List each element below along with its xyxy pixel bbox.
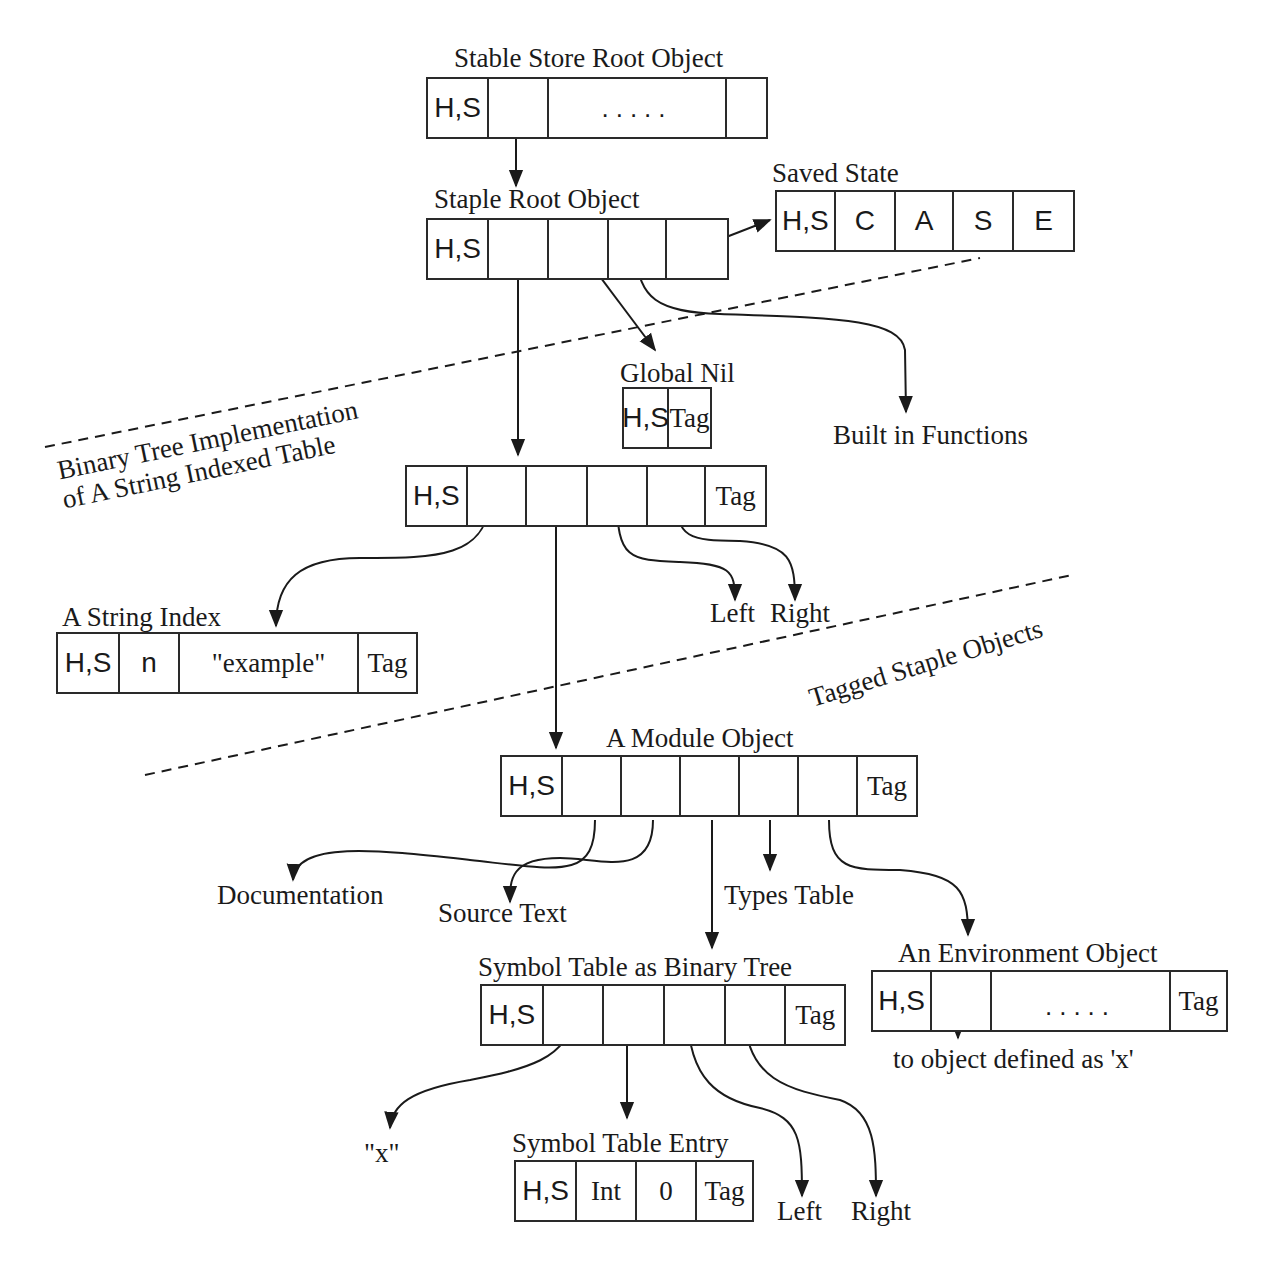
types-table-pointer-cell bbox=[740, 757, 799, 815]
char-cell: S bbox=[954, 192, 1015, 250]
type-cell: Int bbox=[577, 1162, 637, 1220]
header-size-cell: H,S bbox=[482, 986, 544, 1044]
left-pointer-cell bbox=[665, 986, 726, 1044]
source-text-label: Source Text bbox=[438, 900, 567, 927]
dashed-separator-top bbox=[45, 258, 980, 447]
pointer-cell bbox=[468, 467, 528, 525]
staple-root-record: H,S bbox=[426, 218, 729, 280]
pointer-cell bbox=[648, 467, 707, 525]
pointer-cell bbox=[489, 220, 549, 278]
tag-cell: Tag bbox=[359, 634, 416, 692]
stable-store-root-title: Stable Store Root Object bbox=[454, 45, 723, 72]
header-size-cell: H,S bbox=[873, 972, 932, 1030]
tag-cell: Tag bbox=[669, 389, 710, 447]
char-cell: C bbox=[836, 192, 897, 250]
pointer-cell bbox=[549, 220, 609, 278]
ellipsis-cell: ..... bbox=[549, 79, 727, 137]
header-size-cell: H,S bbox=[502, 757, 563, 815]
string-index-record: H,S n "example" Tag bbox=[56, 632, 418, 694]
char-cell: E bbox=[1014, 192, 1073, 250]
string-value-cell: "example" bbox=[180, 634, 359, 692]
left-label: Left bbox=[710, 600, 755, 627]
saved-state-title: Saved State bbox=[772, 160, 899, 187]
right-pointer-cell bbox=[726, 986, 787, 1044]
binary-tree-node-record: H,S Tag bbox=[405, 465, 767, 527]
symbol-table-pointer-cell bbox=[681, 757, 740, 815]
global-nil-title: Global Nil bbox=[620, 360, 735, 387]
value-cell: 0 bbox=[637, 1162, 697, 1220]
string-index-title: A String Index bbox=[62, 604, 221, 631]
pointer-cell bbox=[727, 79, 766, 137]
stable-store-root-record: H,S ..... bbox=[426, 77, 768, 139]
built-in-functions-label: Built in Functions bbox=[833, 422, 1028, 449]
object-defined-x-label: to object defined as 'x' bbox=[893, 1046, 1134, 1073]
symbol-tree-title: Symbol Table as Binary Tree bbox=[478, 954, 792, 981]
right-label: Right bbox=[851, 1198, 911, 1225]
header-size-cell: H,S bbox=[428, 79, 489, 137]
key-pointer-cell bbox=[544, 986, 605, 1044]
pointer-cell bbox=[667, 220, 727, 278]
entry-pointer-cell bbox=[604, 986, 665, 1044]
header-size-cell: H,S bbox=[516, 1162, 577, 1220]
right-label: Right bbox=[770, 600, 830, 627]
header-size-cell: H,S bbox=[777, 192, 836, 250]
symbol-entry-title: Symbol Table Entry bbox=[512, 1130, 729, 1157]
symbol-entry-record: H,S Int 0 Tag bbox=[514, 1160, 754, 1222]
ellipsis-cell: ..... bbox=[992, 972, 1171, 1030]
tag-cell: Tag bbox=[706, 467, 765, 525]
module-object-title: A Module Object bbox=[606, 725, 793, 752]
pointer-cell bbox=[527, 467, 588, 525]
types-table-label: Types Table bbox=[724, 882, 854, 909]
environment-pointer-cell bbox=[799, 757, 858, 815]
left-label: Left bbox=[777, 1198, 822, 1225]
environment-object-record: H,S ..... Tag bbox=[871, 970, 1228, 1032]
global-nil-record: H,S Tag bbox=[622, 387, 712, 449]
header-size-cell: H,S bbox=[58, 634, 120, 692]
header-size-cell: H,S bbox=[407, 467, 468, 525]
char-cell: A bbox=[896, 192, 954, 250]
saved-state-record: H,S C A S E bbox=[775, 190, 1075, 252]
tag-cell: Tag bbox=[786, 986, 844, 1044]
binding-pointer-cell bbox=[932, 972, 992, 1030]
staple-root-title: Staple Root Object bbox=[434, 186, 639, 213]
tag-cell: Tag bbox=[1171, 972, 1226, 1030]
x-string-label: "x" bbox=[364, 1140, 400, 1167]
length-cell: n bbox=[120, 634, 180, 692]
pointer-cell bbox=[489, 79, 549, 137]
header-size-cell: H,S bbox=[624, 389, 669, 447]
documentation-pointer-cell bbox=[563, 757, 622, 815]
tag-cell: Tag bbox=[697, 1162, 752, 1220]
module-object-record: H,S Tag bbox=[500, 755, 918, 817]
documentation-label: Documentation bbox=[217, 882, 383, 909]
environment-object-title: An Environment Object bbox=[898, 940, 1157, 967]
symbol-tree-record: H,S Tag bbox=[480, 984, 846, 1046]
tag-cell: Tag bbox=[858, 757, 916, 815]
pointer-cell bbox=[609, 220, 667, 278]
header-size-cell: H,S bbox=[428, 220, 489, 278]
pointer-cell bbox=[588, 467, 648, 525]
source-text-pointer-cell bbox=[622, 757, 681, 815]
